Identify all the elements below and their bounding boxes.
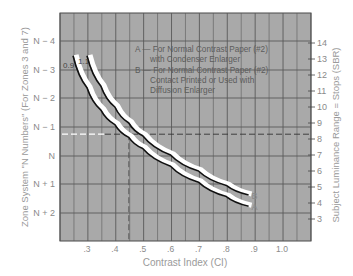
y-axis-right-title: Subject Luminance Range = Stops (SBR) (330, 47, 341, 222)
x-tick-label: .5 (139, 244, 146, 254)
curve-start-label: 1.1 (78, 57, 90, 66)
x-axis-title: Contrast Index (CI) (143, 257, 227, 268)
y-left-tick-label: N − 4 (33, 36, 55, 46)
legend-line: with Condenser Enlarger (149, 55, 240, 64)
x-tick-labels: .3.4.5.6.7.8.91.0 (83, 244, 288, 254)
x-tick-label: .6 (167, 244, 174, 254)
y-right-tick-label: 6 (317, 166, 322, 176)
y-right-tick-label: 3 (317, 214, 322, 224)
y-left-tick-label: N − 2 (33, 93, 55, 103)
y-right-tick-label: 12 (317, 70, 327, 80)
legend-line: A — For Normal Contrast Paper (#2) (135, 45, 268, 54)
x-tick-label: .8 (223, 244, 230, 254)
y-right-tick-label: 5 (317, 182, 322, 192)
x-tick-label: .7 (195, 244, 202, 254)
y-right-tick-label: 10 (317, 102, 327, 112)
curve-start-label: 0.9 (63, 61, 75, 70)
y-right-tick-label: 13 (317, 54, 327, 64)
x-tick-label: .3 (83, 244, 90, 254)
y-left-tick-label: N + 2 (33, 208, 55, 218)
x-tick-label: 1.0 (276, 244, 288, 254)
y-left-tick-label: N − 1 (33, 122, 55, 132)
x-tick-label: .9 (251, 244, 258, 254)
y-right-tick-label: 7 (317, 150, 322, 160)
y-axis-left-title: Zone System "N Numbers" (For Zones 3 and… (19, 27, 30, 227)
y-left-tick-label: N + 1 (33, 179, 55, 189)
y-right-tick-label: 11 (317, 86, 326, 96)
y-left-tick-label: N − 3 (33, 65, 55, 75)
curve-end-label: B (252, 191, 258, 201)
y-left-tick-labels: N − 4N − 3N − 2N − 1NN + 1N + 2 (33, 36, 55, 218)
chart-svg: AB0.91.1 A — For Normal Contrast Paper (… (0, 0, 353, 276)
curve-end-label: A (252, 202, 258, 212)
y-right-tick-label: 9 (317, 118, 322, 128)
y-right-tick-label: 14 (317, 38, 327, 48)
legend-line: B — For Normal Contrast Paper (#2) (135, 66, 269, 75)
chart: AB0.91.1 A — For Normal Contrast Paper (… (0, 0, 353, 276)
y-left-tick-label: N (49, 151, 56, 161)
y-right-tick-label: 4 (317, 198, 322, 208)
x-tick-label: .4 (111, 244, 118, 254)
legend-line: Diffusion Enlarger (150, 86, 215, 95)
legend-line: Contact Printed or Used with (150, 76, 255, 85)
y-right-tick-label: 8 (317, 134, 322, 144)
